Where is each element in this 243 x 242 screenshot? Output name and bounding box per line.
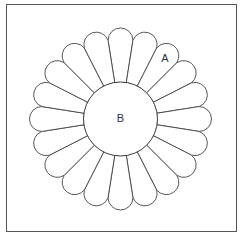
label-a: A [161, 52, 169, 64]
label-b: B [117, 112, 124, 124]
dresden-plate-diagram: A B [0, 0, 243, 242]
